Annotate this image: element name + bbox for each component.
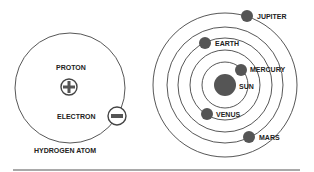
mercury-label: MERCURY <box>250 66 285 73</box>
planet-venus <box>201 108 213 120</box>
electron-label: ELECTRON <box>57 113 96 120</box>
hydrogen-atom: PROTON ELECTRON HYDROGEN ATOM <box>15 33 126 154</box>
sun <box>214 74 236 96</box>
proton-plus-icon <box>61 79 77 95</box>
mars-label: MARS <box>259 134 280 141</box>
planet-jupiter <box>241 10 253 22</box>
planet-earth <box>199 37 211 49</box>
solar-system: SUN MERCURY VENUS EARTH MARS JUPITER <box>153 10 297 157</box>
sun-label: SUN <box>239 83 254 90</box>
hydrogen-atom-caption: HYDROGEN ATOM <box>34 147 96 154</box>
electron-minus-icon <box>108 107 126 125</box>
earth-label: EARTH <box>215 40 239 47</box>
planet-mercury <box>235 64 247 76</box>
venus-label: VENUS <box>216 111 240 118</box>
jupiter-label: JUPITER <box>257 13 287 20</box>
proton-label: PROTON <box>56 64 86 71</box>
diagram: PROTON ELECTRON HYDROGEN ATOM SUN MERCUR… <box>0 0 314 172</box>
planet-mars <box>243 131 255 143</box>
